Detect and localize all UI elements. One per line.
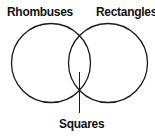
- rhombuses-label: Rhombuses: [7, 4, 73, 19]
- rectangles-circle: [69, 24, 148, 103]
- rhombuses-circle: [12, 24, 91, 103]
- rectangles-label: Rectangles: [96, 4, 155, 19]
- squares-label: Squares: [59, 116, 104, 131]
